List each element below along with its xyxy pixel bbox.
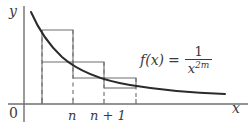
x-axis-label: x (232, 101, 240, 115)
formula-fraction: 1 x2m (185, 45, 213, 75)
function-formula: f(x) = 1 x2m (140, 45, 212, 75)
riemann-rectangles (42, 30, 136, 104)
dashed-gridlines (42, 30, 136, 100)
tick-label-n: n (68, 109, 76, 122)
function-rectangles-diagram: y x 0 n n + 1 f(x) = 1 x2m (0, 0, 251, 134)
formula-function-name: f(x) (140, 52, 164, 68)
tick-label-n-plus-1: n + 1 (90, 109, 126, 122)
x-axis-ticks (42, 99, 136, 104)
formula-numerator: 1 (190, 45, 206, 59)
origin-label: 0 (9, 106, 18, 120)
formula-denominator: x2m (185, 60, 213, 75)
rectangle-1 (42, 30, 73, 62)
formula-denominator-base: x (188, 61, 195, 76)
formula-equals-sign: = (168, 52, 180, 68)
y-axis-label: y (9, 4, 17, 18)
formula-denominator-exponent: 2m (195, 60, 209, 70)
